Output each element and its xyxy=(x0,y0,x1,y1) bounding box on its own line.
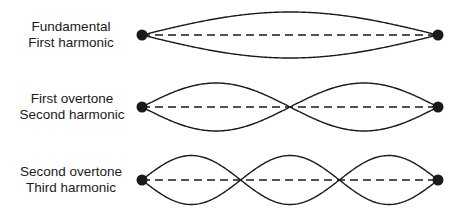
upper-envelope-curve xyxy=(142,12,438,35)
mode-1-wave xyxy=(137,12,444,58)
right-fixed-end-dot xyxy=(433,102,444,113)
standing-wave-diagram xyxy=(0,0,455,215)
right-fixed-end-dot xyxy=(433,175,444,186)
mode-2-wave xyxy=(137,83,444,131)
left-fixed-end-dot xyxy=(137,30,148,41)
right-fixed-end-dot xyxy=(433,30,444,41)
left-fixed-end-dot xyxy=(137,175,148,186)
left-fixed-end-dot xyxy=(137,102,148,113)
mode-3-wave xyxy=(137,156,444,205)
lower-envelope-curve xyxy=(142,35,438,58)
